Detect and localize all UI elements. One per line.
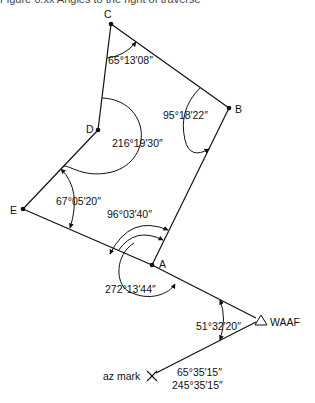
leg-c-b bbox=[111, 24, 229, 108]
traverse-diagram: C B D E A WAAF az mark 65°13′08″ 95°18′2… bbox=[0, 0, 315, 403]
point-label-waaf: WAAF bbox=[270, 316, 300, 328]
cross-icon bbox=[147, 371, 157, 381]
bearing-label-forward: 65°35′15″ bbox=[177, 366, 222, 378]
point-b-marker bbox=[227, 106, 232, 111]
arc-d bbox=[62, 98, 141, 174]
point-a-marker bbox=[150, 263, 155, 268]
arc-a-inner bbox=[118, 235, 163, 251]
angle-label-e: 67°05′20″ bbox=[56, 195, 101, 207]
point-label-d: D bbox=[86, 123, 94, 135]
angle-label-d: 216°19′30″ bbox=[112, 137, 163, 149]
angle-label-a-inner: 96°03′40″ bbox=[107, 208, 152, 220]
leg-b-a bbox=[152, 108, 229, 265]
leg-c-d bbox=[98, 24, 111, 130]
point-label-a: A bbox=[159, 258, 166, 270]
angle-label-a-outer: 272°13′44″ bbox=[105, 283, 156, 295]
triangle-icon bbox=[255, 315, 267, 325]
point-e-marker bbox=[21, 207, 26, 212]
point-d-marker bbox=[96, 128, 101, 133]
point-label-az-mark: az mark bbox=[103, 370, 141, 382]
point-c-marker bbox=[109, 22, 114, 27]
bearing-label-back: 245°35′15″ bbox=[172, 379, 223, 391]
angle-label-b: 95°18′22″ bbox=[163, 109, 208, 121]
angle-label-waaf: 51°32′20″ bbox=[196, 320, 241, 332]
point-label-c: C bbox=[104, 8, 112, 20]
point-label-b: B bbox=[235, 103, 242, 115]
angle-label-c: 65°13′08″ bbox=[108, 54, 153, 66]
point-label-e: E bbox=[10, 204, 17, 216]
